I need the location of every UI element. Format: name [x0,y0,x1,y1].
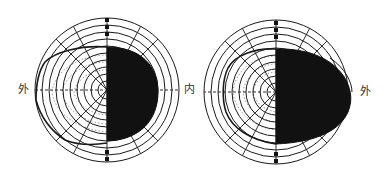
left-field-label-temporal: 外 [18,84,29,96]
left-field-label-nasal: 内 [184,84,195,96]
left-visual-field [30,10,190,170]
right-visual-field [198,12,356,172]
right-field-label-temporal: 外 [360,86,371,98]
